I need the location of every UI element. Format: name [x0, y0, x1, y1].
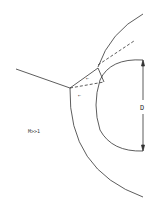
diagram-canvas: D M>>1 ← ← — [0, 0, 154, 212]
kink-segment-1 — [70, 68, 98, 88]
shock-lower-arc — [70, 88, 143, 197]
flow-mark-1: ← — [86, 75, 89, 81]
shock-upper-arc — [98, 14, 143, 67]
incident-shock-line — [16, 69, 70, 88]
slip-line-upper — [98, 41, 134, 65]
mach-label: M>>1 — [28, 128, 40, 134]
body-contour — [96, 60, 143, 151]
diameter-label: D — [140, 104, 144, 112]
arrowhead-up-icon — [142, 60, 145, 66]
arrowhead-down-icon — [142, 145, 145, 151]
flow-mark-2: ← — [78, 92, 81, 98]
